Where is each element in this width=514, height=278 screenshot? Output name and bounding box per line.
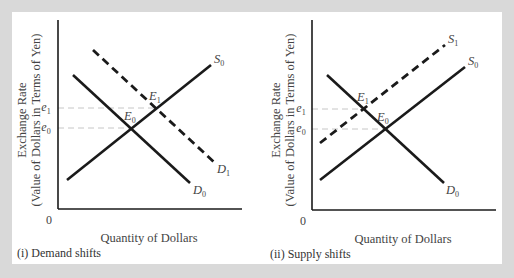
tick-e1: e1 — [296, 101, 305, 117]
supply-curve-s0 — [67, 65, 211, 180]
origin-label: 0 — [300, 214, 306, 228]
y-axis-title-line1: Exchange Rate — [15, 82, 29, 158]
label-e1: E1 — [148, 89, 161, 105]
chart-supply-shifts: Exchange Rate (Value of Dollars in Terms… — [269, 20, 496, 261]
figure-svg: Exchange Rate (Value of Dollars in Terms… — [0, 0, 514, 278]
supply-curve-s0 — [320, 67, 465, 180]
label-d0: D0 — [445, 183, 459, 199]
label-e1: E1 — [356, 90, 369, 106]
label-s0: S0 — [468, 54, 478, 70]
x-axis-title: Quantity of Dollars — [354, 232, 451, 246]
supply-curve-s1 — [320, 45, 445, 143]
label-s0: S0 — [214, 52, 224, 68]
caption-supply-shifts: (ii) Supply shifts — [270, 247, 351, 261]
y-axis-title-line1: Exchange Rate — [269, 82, 283, 158]
origin-label: 0 — [46, 213, 52, 227]
tick-e0: e0 — [296, 121, 305, 137]
label-s1: S1 — [448, 32, 458, 48]
demand-curve-d0 — [73, 75, 190, 183]
y-axis-title-line2: (Value of Dollars in Terms of Yen) — [283, 34, 297, 207]
label-d0: D0 — [192, 183, 206, 199]
caption-demand-shifts: (i) Demand shifts — [17, 246, 101, 260]
label-e0: E0 — [376, 110, 389, 126]
label-d1: D1 — [216, 162, 230, 178]
label-e0: E0 — [123, 109, 136, 125]
chart-demand-shifts: Exchange Rate (Value of Dollars in Terms… — [15, 20, 242, 260]
tick-e1: e1 — [41, 100, 50, 116]
x-axis-title: Quantity of Dollars — [100, 231, 197, 245]
tick-e0: e0 — [41, 120, 50, 136]
